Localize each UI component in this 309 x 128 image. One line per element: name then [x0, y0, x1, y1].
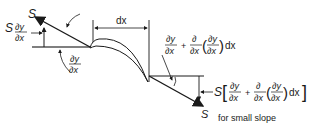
term-den: ∂x — [165, 46, 174, 56]
term-num: ∂y — [208, 34, 217, 44]
left-top-pointer — [67, 14, 80, 27]
term-den: ∂x — [207, 46, 216, 56]
string-element — [90, 39, 148, 82]
left-force-label: S — [28, 7, 36, 21]
left-component-num: ∂y — [15, 22, 24, 32]
term-den: ∂x — [229, 93, 238, 103]
right-angle-arc — [174, 77, 176, 86]
right-angle-expression: ∂y ∂x + ∂ ∂x ( ∂y ∂x ) dx — [165, 34, 236, 56]
close-bracket: ] — [302, 82, 307, 102]
term-den: ∂x — [271, 93, 280, 103]
right-force-label: S — [201, 108, 209, 120]
term-den: ∂x — [190, 46, 199, 56]
right-component-expression: S [ ∂y ∂x + ∂ ∂x ( ∂y ∂x ) dx ] — [214, 81, 307, 103]
dx-term: dx — [289, 87, 300, 98]
term-den: ∂x — [254, 93, 263, 103]
term-num: ∂ — [256, 81, 261, 91]
term-num: ∂y — [166, 34, 175, 44]
term-num: ∂ — [192, 34, 197, 44]
small-slope-note: for small slope — [218, 113, 276, 123]
close-paren: ) — [283, 84, 288, 101]
open-bracket: [ — [222, 82, 227, 102]
dx-term: dx — [225, 40, 236, 51]
left-component-den: ∂x — [15, 33, 24, 43]
plus-sign: + — [245, 88, 250, 98]
close-paren: ) — [219, 37, 224, 54]
left-tension-arrow — [35, 17, 90, 47]
plus-sign: + — [181, 41, 186, 51]
prefix-s: S — [214, 85, 222, 99]
string-element-diagram: S S ∂y ∂x ∂y ∂x dx S ∂y ∂x + ∂ ∂x ( ∂y ∂… — [0, 0, 309, 128]
left-component-prefix: S — [5, 21, 13, 35]
term-num: ∂y — [230, 81, 239, 91]
left-angle-den: ∂x — [69, 65, 78, 75]
left-angle-num: ∂y — [70, 54, 79, 64]
dx-label: dx — [116, 15, 127, 26]
term-num: ∂y — [272, 81, 281, 91]
